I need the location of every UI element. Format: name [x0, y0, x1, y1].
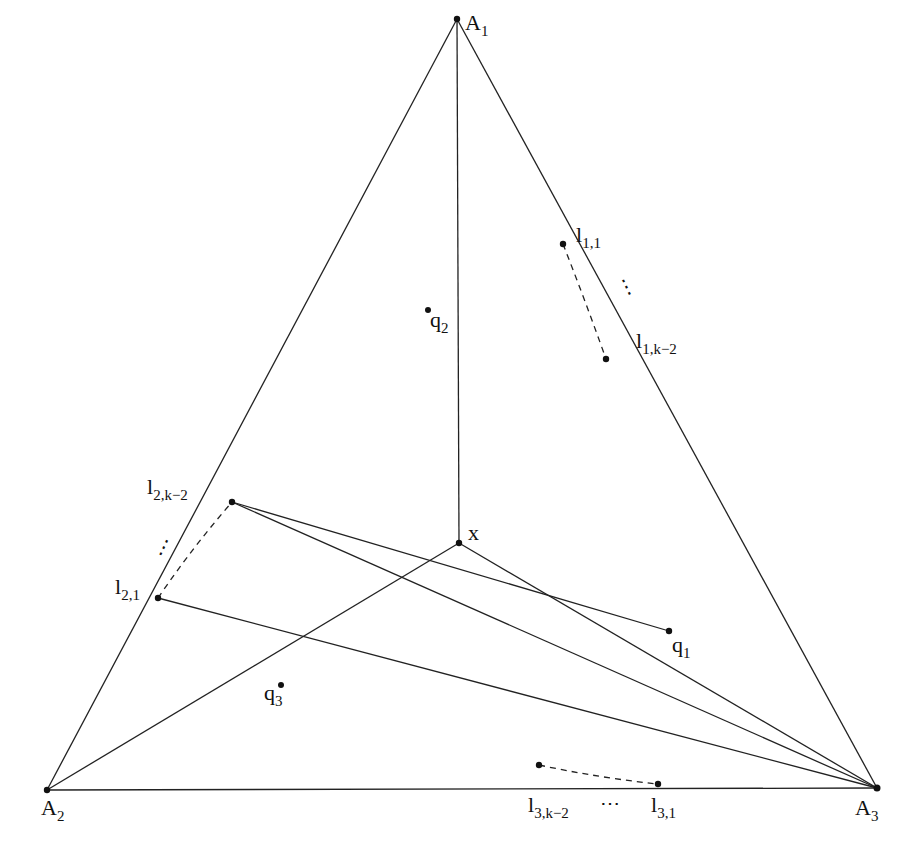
ellipsis-side-3: ⋯: [600, 792, 620, 814]
label-q2: q2: [430, 307, 449, 336]
label-l2k2: l2,k−2: [147, 474, 188, 503]
edge-A1-A2: [47, 19, 457, 790]
edge-l2k2-q1: [232, 502, 669, 631]
label-l31: l3,1: [651, 792, 676, 821]
label-l11: l1,1: [576, 222, 601, 251]
edge-A1-x: [457, 19, 459, 543]
label-A3: A3: [855, 795, 878, 824]
label-A2: A2: [41, 795, 64, 824]
point-l31: [655, 781, 661, 787]
point-A3: [874, 785, 881, 792]
point-A1: [454, 16, 460, 22]
edge-A2-A3: [47, 788, 877, 790]
dashed-l11-l1k2: [563, 244, 606, 359]
edge-A1-A3: [457, 19, 877, 788]
point-A2: [44, 787, 50, 793]
label-l3k2: l3,k−2: [528, 792, 569, 821]
label-A1: A1: [465, 10, 488, 39]
point-x: [456, 540, 462, 546]
point-l2k2: [229, 499, 235, 505]
point-q3: [278, 682, 284, 688]
point-l3k2: [536, 762, 542, 768]
ellipsis-side-2: ⋮: [150, 532, 177, 560]
point-l1k2: [603, 356, 609, 362]
point-l21: [155, 595, 161, 601]
ellipsis-side-1: ⋮: [612, 272, 639, 300]
label-l21: l2,1: [115, 574, 140, 603]
label-l1k2: l1,k−2: [636, 328, 677, 357]
label-x: x: [468, 520, 479, 545]
dashed-l3k2-l31: [539, 765, 658, 784]
label-q1: q1: [672, 632, 691, 661]
point-l11: [560, 241, 566, 247]
edge-l2k2-A3: [232, 502, 877, 788]
triangle-diagram: A1 A2 A3 x q1 q2 q3 l1,1 l1,k−2 l2,k−2 l…: [0, 0, 916, 861]
edge-A3-x: [459, 543, 877, 788]
edge-A2-x: [47, 543, 459, 790]
